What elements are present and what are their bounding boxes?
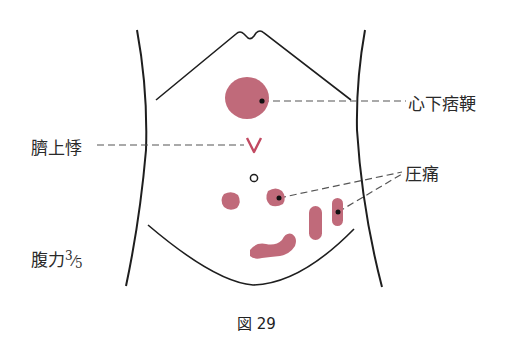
tenderness-blob-vertical	[309, 206, 322, 240]
leader-line-atsutsu-2	[338, 174, 402, 212]
tenderness-blob-lower	[250, 234, 296, 259]
abdominal-diagnosis-figure: 心下痞鞕 臍上悸 圧痛 腹力3⁄5 図 29	[0, 0, 521, 352]
tenderness-blob-center	[266, 189, 284, 207]
fukuryoku-denominator: 5	[75, 257, 83, 271]
fukuryoku-fraction: 3⁄5	[65, 255, 83, 269]
figure-caption: 図 29	[237, 312, 276, 333]
label-seijo-ki: 臍上悸	[31, 134, 82, 159]
tenderness-blob-left	[222, 192, 240, 210]
label-shinka-hiko: 心下痞鞕	[408, 90, 476, 115]
fukuryoku-prefix: 腹力	[31, 250, 65, 270]
leader-line-atsutsu-1	[279, 172, 402, 198]
epigastric-finding-circle	[225, 77, 269, 119]
torso-right-outline	[357, 30, 382, 287]
tenderness-dot-center-icon	[277, 196, 282, 201]
epigastric-dot-icon	[259, 98, 264, 103]
label-fukuryoku: 腹力3⁄5	[31, 246, 83, 271]
label-atsutsu: 圧痛	[405, 160, 439, 185]
tenderness-dot-right-icon	[336, 210, 341, 215]
fukuryoku-numerator: 3	[65, 249, 73, 263]
torso-left-outline	[126, 30, 146, 286]
navel-icon	[250, 174, 257, 181]
abdomen-diagram	[0, 0, 521, 352]
pulsation-v-mark-icon	[247, 138, 261, 152]
